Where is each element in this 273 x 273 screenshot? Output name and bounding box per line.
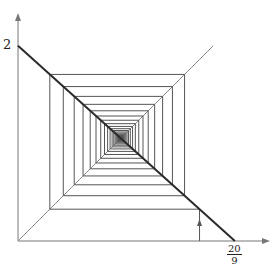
x-axis-arrow-icon xyxy=(262,238,270,244)
function-line xyxy=(18,46,235,241)
diagonal-line xyxy=(18,46,213,241)
x-label-numerator: 20 xyxy=(227,243,242,255)
cobweb-plot xyxy=(0,0,273,273)
cobweb-diagram: 2 20 9 xyxy=(0,0,273,273)
x-label-denominator: 9 xyxy=(227,255,242,266)
y-axis-label: 2 xyxy=(3,37,11,52)
start-arrow-icon xyxy=(197,219,202,226)
x-axis-label: 20 9 xyxy=(227,243,242,266)
y-axis-arrow-icon xyxy=(15,13,21,21)
